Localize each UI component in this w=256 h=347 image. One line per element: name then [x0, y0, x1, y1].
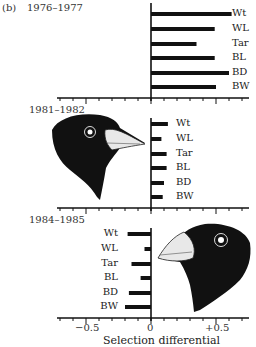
trait-label-bd: BD [176, 176, 191, 187]
tick-label-0: 0 [147, 322, 153, 333]
tick-label-neg05: −0.5 [75, 322, 99, 333]
trait-label-bd: BD [103, 286, 118, 297]
bar-tar [151, 152, 167, 156]
trait-label-bw: BW [232, 80, 250, 91]
bar-wl [151, 137, 161, 141]
bar-bl [151, 56, 215, 60]
bar-bl [141, 276, 151, 280]
trait-label-tar: Tar [232, 37, 249, 48]
bar-wt [151, 12, 232, 16]
bar-wt [151, 122, 168, 126]
trait-label-bl: BL [104, 271, 118, 282]
bar-tar [132, 262, 152, 266]
bar-bd [151, 71, 229, 75]
bar-bw [125, 305, 151, 309]
bar-wl [145, 247, 152, 251]
trait-label-wl: WL [232, 22, 249, 33]
trait-label-wt: Wt [104, 227, 118, 238]
panel-0 [57, 3, 249, 104]
trait-label-wt: Wt [176, 117, 190, 128]
tick-label-pos05: +0.5 [205, 322, 229, 333]
trait-label-tar: Tar [176, 147, 193, 158]
trait-label-bw: BW [176, 190, 194, 201]
trait-label-bw: BW [100, 300, 118, 311]
trait-label-bl: BL [176, 161, 190, 172]
trait-label-wl: WL [176, 132, 193, 143]
selection-differential-chart [0, 0, 256, 347]
trait-label-bl: BL [232, 51, 246, 62]
trait-label-wl: WL [101, 242, 118, 253]
panel-1 [57, 118, 249, 214]
bar-tar [151, 42, 197, 46]
bar-bl [151, 166, 167, 170]
trait-label-tar: Tar [101, 257, 118, 268]
bar-bw [151, 195, 163, 199]
bar-bd [151, 181, 164, 185]
trait-label-wt: Wt [232, 7, 246, 18]
x-axis-label: Selection differential [103, 334, 220, 347]
panel-2 [57, 228, 249, 324]
trait-label-bd: BD [232, 66, 247, 77]
bar-wt [128, 232, 151, 236]
bar-bw [151, 85, 216, 89]
bar-wl [151, 27, 215, 31]
bar-bd [129, 291, 151, 295]
